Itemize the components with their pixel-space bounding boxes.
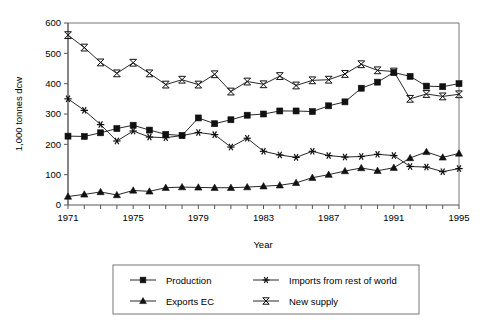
line-chart: 0100200300400500600 19711975197919831987… (0, 0, 489, 326)
series-markers (64, 148, 462, 199)
x-axis-title: Year (253, 239, 272, 250)
legend-item-exports-ec[interactable]: Exports EC (130, 296, 214, 307)
x-tick-label: 1991 (383, 212, 404, 223)
x-tick-label: 1979 (188, 212, 209, 223)
x-tick-label: 1987 (318, 212, 339, 223)
x-tick-label: 1995 (448, 212, 469, 223)
y-tick-label: 400 (45, 78, 61, 89)
chart-figure: 0100200300400500600 19711975197919831987… (0, 0, 489, 326)
legend-box (113, 265, 419, 314)
series-markers (65, 69, 462, 139)
series-new-supply (65, 32, 463, 103)
legend-label: Imports from rest of world (289, 275, 397, 286)
series-layer (64, 32, 462, 199)
y-tick-label: 500 (45, 48, 61, 59)
legend-label: New supply (289, 296, 338, 307)
series-line (68, 99, 459, 172)
legend-entries: ProductionImports from rest of worldExpo… (130, 275, 397, 307)
x-tick-label: 1983 (253, 212, 274, 223)
legend-item-imports-from-rest-of-world[interactable]: Imports from rest of world (253, 275, 397, 286)
series-markers (65, 32, 463, 103)
y-tick-label: 0 (56, 199, 61, 210)
series-markers (64, 96, 462, 175)
x-axis-tick-labels: 1971197519791983198719911995 (57, 212, 469, 223)
legend-label: Exports EC (166, 296, 214, 307)
series-line (68, 152, 459, 197)
legend-item-new-supply[interactable]: New supply (253, 296, 338, 307)
legend-label: Production (166, 275, 211, 286)
x-tick-label: 1975 (123, 212, 144, 223)
series-imports-from-rest-of-world (64, 96, 462, 175)
x-tick-label: 1971 (57, 212, 78, 223)
y-tick-label: 200 (45, 139, 61, 150)
y-tick-label: 300 (45, 108, 61, 119)
y-tick-label: 600 (45, 17, 61, 28)
y-tick-label: 100 (45, 169, 61, 180)
legend-item-production[interactable]: Production (130, 275, 211, 286)
y-axis-tick-labels: 0100200300400500600 (45, 17, 61, 210)
series-line (68, 35, 459, 99)
y-axis-title: 1,000 tonnes dcw (13, 77, 24, 152)
series-production (65, 69, 462, 139)
series-exports-ec (64, 148, 462, 199)
